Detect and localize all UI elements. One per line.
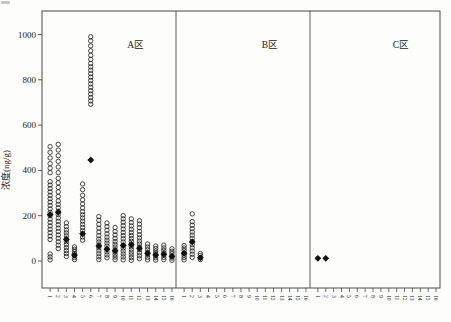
x-tick-label: 11: [394, 295, 400, 301]
sample-point-circle: [105, 221, 109, 225]
sample-point-circle: [48, 252, 52, 256]
sample-point-circle: [56, 181, 60, 185]
sample-point-circle: [129, 217, 133, 221]
chart-background: [0, 0, 451, 322]
y-axis-label: 浓度(ng/g): [0, 150, 11, 190]
x-tick-label: 2: [323, 295, 329, 298]
sample-point-circle: [89, 53, 93, 57]
sample-point-circle: [80, 198, 84, 202]
panel-label: C区: [393, 40, 409, 50]
sample-point-circle: [48, 166, 52, 170]
sample-point-circle: [72, 245, 76, 249]
x-tick-label: 4: [339, 295, 345, 298]
x-tick-label: 9: [378, 295, 384, 298]
x-tick-label: 11: [128, 295, 134, 301]
sample-point-circle: [48, 144, 52, 148]
x-tick-label: 8: [238, 295, 244, 298]
sample-point-circle: [48, 170, 52, 174]
x-tick-label: 5: [346, 295, 352, 298]
sample-point-circle: [56, 142, 60, 146]
sample-point-circle: [121, 214, 125, 218]
y-tick-label: 600: [23, 120, 37, 130]
x-tick-label: 3: [63, 295, 69, 298]
sample-point-circle: [190, 212, 194, 216]
x-tick-label: 8: [104, 295, 110, 298]
x-tick-label: 7: [230, 295, 236, 298]
sample-point-circle: [56, 159, 60, 163]
sample-point-circle: [56, 199, 60, 203]
sample-point-circle: [48, 156, 52, 160]
sample-point-circle: [89, 35, 93, 39]
y-tick-label: 400: [23, 165, 37, 175]
x-tick-label: 1: [181, 295, 187, 298]
sample-point-circle: [80, 182, 84, 186]
sample-point-circle: [153, 244, 157, 248]
sample-point-circle: [56, 148, 60, 152]
sample-point-circle: [89, 44, 93, 48]
x-tick-label: 16: [433, 295, 439, 301]
x-tick-label: 14: [417, 295, 423, 301]
figure: 02004006008001000浓度(ng/g)A区1234567891011…: [0, 0, 451, 322]
x-tick-label: 16: [169, 295, 175, 301]
x-tick-label: 14: [153, 295, 159, 301]
sample-point-circle: [113, 225, 117, 229]
x-tick-label: 4: [205, 295, 211, 298]
y-tick-label: 0: [32, 256, 37, 266]
sample-point-circle: [137, 218, 141, 222]
x-tick-label: 6: [354, 295, 360, 298]
x-tick-label: 6: [88, 295, 94, 298]
x-tick-label: 7: [362, 295, 368, 298]
sample-point-circle: [48, 161, 52, 165]
y-tick-label: 800: [23, 75, 37, 85]
sample-point-circle: [97, 214, 101, 218]
x-tick-label: 10: [120, 295, 126, 301]
sample-point-circle: [80, 193, 84, 197]
sample-point-circle: [162, 243, 166, 247]
x-tick-label: 14: [287, 295, 293, 301]
x-tick-label: 13: [145, 295, 151, 301]
sample-point-circle: [56, 153, 60, 157]
x-tick-label: 5: [214, 295, 220, 298]
x-tick-label: 15: [425, 295, 431, 301]
sample-point-circle: [190, 219, 194, 223]
x-tick-label: 9: [112, 295, 118, 298]
x-tick-label: 12: [136, 295, 142, 301]
x-tick-label: 15: [295, 295, 301, 301]
sample-point-circle: [48, 180, 52, 184]
sample-point-circle: [48, 150, 52, 154]
x-tick-label: 16: [303, 295, 309, 301]
x-tick-label: 7: [96, 295, 102, 298]
sample-point-circle: [56, 165, 60, 169]
scan-artifact: [1, 1, 10, 4]
x-tick-label: 6: [222, 295, 228, 298]
x-tick-label: 1: [315, 295, 321, 298]
sample-point-circle: [89, 49, 93, 53]
x-tick-label: 2: [189, 295, 195, 298]
sample-point-circle: [56, 190, 60, 194]
sample-point-circle: [56, 170, 60, 174]
panel-label: A区: [127, 40, 144, 50]
sample-point-circle: [182, 243, 186, 247]
x-tick-label: 3: [197, 295, 203, 298]
panel-label: B区: [262, 40, 278, 50]
x-tick-label: 13: [409, 295, 415, 301]
sample-point-circle: [170, 247, 174, 251]
x-tick-label: 10: [254, 295, 260, 301]
sample-point-circle: [145, 242, 149, 246]
sample-point-circle: [80, 187, 84, 191]
x-tick-label: 8: [370, 295, 376, 298]
y-tick-label: 1000: [18, 30, 37, 40]
x-tick-label: 1: [47, 295, 53, 298]
x-tick-label: 13: [279, 295, 285, 301]
x-tick-label: 11: [262, 295, 268, 301]
x-tick-label: 12: [402, 295, 408, 301]
x-tick-label: 10: [386, 295, 392, 301]
sample-point-circle: [64, 221, 68, 225]
x-tick-label: 9: [246, 295, 252, 298]
x-tick-label: 12: [270, 295, 276, 301]
x-tick-label: 15: [161, 295, 167, 301]
y-tick-label: 200: [23, 211, 37, 221]
x-tick-label: 2: [55, 295, 61, 298]
sample-point-circle: [56, 185, 60, 189]
x-tick-label: 4: [71, 295, 77, 298]
